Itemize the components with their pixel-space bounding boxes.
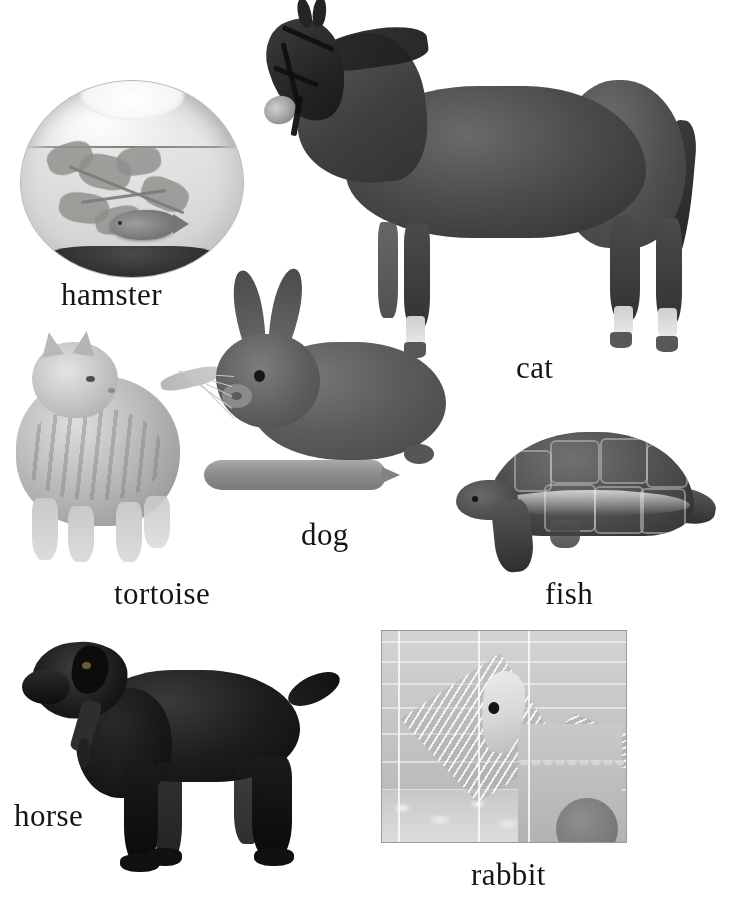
cat-hind-leg-far	[144, 496, 170, 548]
rabbit-hind-paw	[404, 444, 434, 464]
fish-eye	[118, 221, 122, 225]
cage-bar-vertical	[398, 631, 400, 842]
horse-sock-hind-far	[658, 308, 677, 336]
hamster-eye	[488, 701, 500, 714]
dog-paw-front-far	[148, 848, 182, 866]
cat-hind-leg-near	[116, 502, 142, 562]
photo-dog	[20, 630, 350, 880]
cat-ear-right	[72, 330, 97, 357]
label-rabbit: rabbit	[471, 859, 546, 890]
hut-roof-scallop-trim	[518, 760, 624, 772]
tortoise-mid-leg	[550, 520, 580, 548]
cage-bar-horizontal	[382, 641, 626, 643]
label-hamster: hamster	[61, 279, 162, 310]
fishbowl-rim-opening	[79, 80, 186, 120]
dog-hind-leg-far	[234, 762, 262, 844]
label-cat: cat	[516, 352, 553, 383]
rabbit-head	[216, 334, 320, 428]
dog-paw-hind-near	[254, 848, 294, 866]
horse-hoof-hind-far	[656, 336, 678, 352]
rabbit-eye	[254, 370, 265, 382]
dog-snout	[22, 670, 70, 704]
cat-nose	[108, 388, 115, 393]
label-fish: fish	[545, 578, 593, 609]
cat-ear-left	[38, 330, 64, 357]
horse-sock-hind-near	[614, 306, 633, 334]
rabbit-nose	[231, 392, 242, 400]
tortoise-scute	[550, 440, 600, 484]
carrot	[204, 460, 386, 490]
horse-hind-leg-near	[610, 216, 640, 320]
figure-canvas: hamster cat	[0, 0, 729, 904]
dog-eye	[82, 662, 91, 669]
tortoise-scute	[600, 438, 648, 484]
label-dog: dog	[301, 519, 349, 550]
horse-hoof-hind-near	[610, 332, 632, 348]
cat-front-leg-far	[68, 506, 94, 562]
goldfish	[110, 210, 176, 240]
tortoise-scute	[646, 444, 688, 488]
dog-front-leg-far	[154, 762, 182, 860]
dog-collar-tag	[78, 738, 90, 768]
fishbowl-glass	[20, 80, 244, 278]
horse-ear-right	[311, 0, 327, 28]
tortoise-eye	[472, 496, 478, 502]
label-horse: horse	[14, 800, 83, 831]
photo-fishbowl	[20, 72, 242, 277]
photo-hamster-cage	[381, 630, 627, 843]
cat-tabby-stripes	[24, 408, 164, 500]
photo-cat	[10, 330, 210, 570]
photo-tortoise	[452, 428, 722, 588]
cat-front-leg-near	[32, 498, 58, 560]
cage-bar-vertical	[528, 631, 530, 842]
cat-eye	[86, 376, 95, 382]
cage-bar-vertical	[478, 631, 480, 842]
label-tortoise: tortoise	[114, 578, 210, 609]
photo-rabbit	[198, 268, 450, 508]
